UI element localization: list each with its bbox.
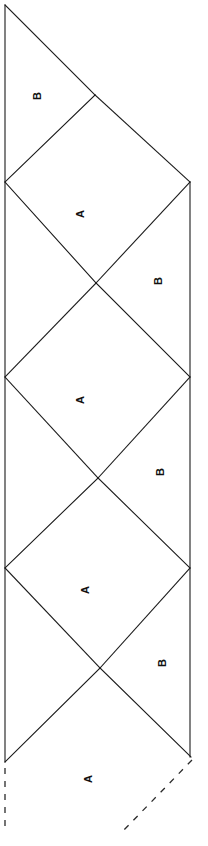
region-label-a3: A <box>79 586 91 594</box>
region-label-a1: A <box>74 210 86 218</box>
tessellation-strip-diagram: B A B A B A B A <box>0 0 208 846</box>
facet-fills <box>5 5 191 820</box>
region-label-b3: B <box>154 468 166 476</box>
region-label-a2: A <box>74 396 86 404</box>
diagram-canvas: B A B A B A B A <box>0 0 208 846</box>
region-label-b1: B <box>31 92 43 100</box>
region-label-b2: B <box>152 277 164 285</box>
region-label-b4: B <box>156 659 168 667</box>
region-label-a4: A <box>82 775 94 783</box>
